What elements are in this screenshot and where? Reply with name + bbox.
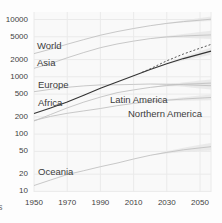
series-label-asia: Asia [37, 57, 55, 68]
y-tick-label-1000: 1000 [0, 72, 28, 82]
x-tick-label-1970: 1970 [52, 198, 82, 208]
x-tick-label-2030: 2030 [152, 198, 182, 208]
x-tick-label-2050: 2050 [185, 198, 215, 208]
y-tick-label-200: 200 [0, 112, 28, 122]
y-tick-label-500: 500 [0, 89, 28, 99]
cropped-edge-text: s [0, 202, 3, 212]
series-label-europe: Europe [38, 79, 69, 90]
y-tick-label-10000: 10000 [0, 15, 28, 25]
x-tick-label-1950: 1950 [19, 198, 49, 208]
population-log-chart: World Asia Europe Africa Latin America N… [0, 0, 222, 223]
y-tick-label-20: 20 [0, 169, 28, 179]
series-label-northern-america: Northern America [128, 108, 202, 119]
y-tick-label-50: 50 [0, 146, 28, 156]
y-tick-label-100: 100 [0, 129, 28, 139]
y-tick-label-10: 10 [0, 186, 28, 196]
series-label-world: World [37, 40, 62, 51]
series-label-oceania: Oceania [38, 166, 73, 177]
x-tick-label-1990: 1990 [85, 198, 115, 208]
y-tick-label-5000: 5000 [0, 32, 28, 42]
series-label-latin-america: Latin America [110, 94, 168, 105]
y-tick-label-2000: 2000 [0, 55, 28, 65]
series-label-africa: Africa [38, 97, 62, 108]
x-tick-label-2010: 2010 [119, 198, 149, 208]
